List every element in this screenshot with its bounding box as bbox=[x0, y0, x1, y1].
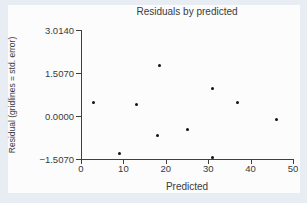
x-tick-label: 30 bbox=[196, 163, 220, 174]
data-point bbox=[135, 103, 138, 106]
x-tick-label: 10 bbox=[111, 163, 135, 174]
y-tick-label: 1.5070 bbox=[28, 68, 74, 79]
y-tick-label: −1.5070 bbox=[28, 154, 74, 165]
x-tick-label: 20 bbox=[154, 163, 178, 174]
x-axis-label: Predicted bbox=[81, 181, 293, 192]
y-tick-mark bbox=[76, 73, 81, 74]
y-axis-label: Residual (gridlines = std. error) bbox=[7, 20, 21, 170]
y-tick-label: 0.0000 bbox=[28, 111, 74, 122]
y-tick-mark bbox=[76, 159, 81, 160]
y-tick-label: 3.0140 bbox=[28, 25, 74, 36]
chart-screen: Residuals by predicted Residual (gridlin… bbox=[0, 0, 307, 203]
y-tick-mark bbox=[76, 116, 81, 117]
x-tick-label: 40 bbox=[239, 163, 263, 174]
x-axis-line bbox=[81, 159, 294, 160]
y-tick-mark bbox=[76, 30, 81, 31]
y-axis-line bbox=[81, 30, 82, 160]
chart-title: Residuals by predicted bbox=[81, 6, 293, 17]
data-point bbox=[211, 156, 214, 159]
data-point bbox=[275, 118, 278, 121]
data-point bbox=[118, 152, 121, 155]
x-tick-label: 50 bbox=[281, 163, 305, 174]
